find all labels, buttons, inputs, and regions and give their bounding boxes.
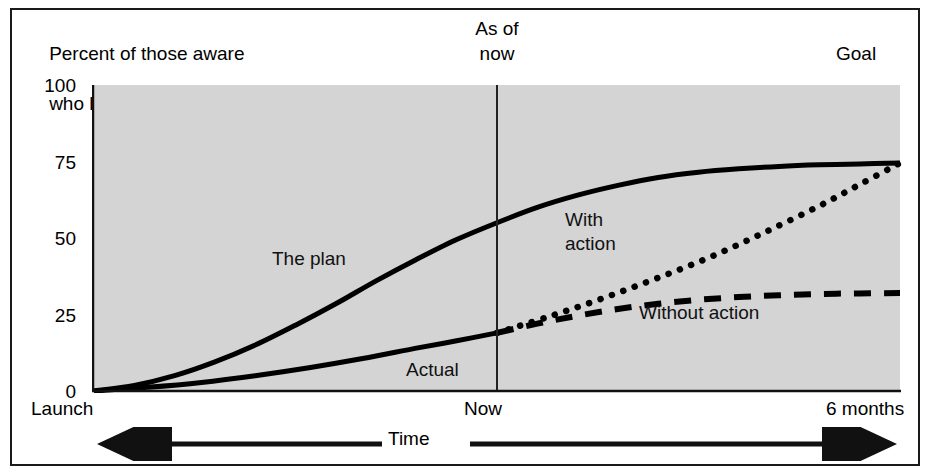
x-tick-label-launch: Launch: [31, 398, 93, 420]
figure-container: Percent of those aware who have tried As…: [0, 0, 932, 476]
y-tick-label-25: 25: [22, 306, 76, 325]
annotation-as-of-now: As of now: [455, 16, 539, 66]
curve-label-the-plan: The plan: [272, 247, 346, 271]
curve-label-with-action: With action With action: [565, 208, 616, 256]
x-axis-title: Time: [388, 428, 430, 450]
y-tick-label-50: 50: [22, 229, 76, 248]
y-tick-label-100: 100: [22, 76, 76, 95]
curve-label-with-action-word2: action: [565, 233, 616, 254]
time-axis-arrow: [80, 427, 912, 461]
y-axis-caption-line1: Percent of those aware: [49, 43, 244, 64]
curve-label-actual: Actual: [406, 358, 459, 382]
curve-label-with-action-word1: With: [565, 209, 603, 230]
x-tick-label-now: Now: [464, 398, 502, 420]
annotation-as-of-now-line1: As of: [475, 18, 518, 39]
annotation-goal: Goal: [836, 41, 876, 66]
curve-label-without-action: Without action: [639, 301, 759, 325]
annotation-as-of-now-line2: now: [480, 43, 515, 64]
x-tick-label-6-months: 6 months: [826, 398, 904, 420]
plot-curves: [92, 85, 902, 393]
y-tick-label-75: 75: [22, 153, 76, 172]
